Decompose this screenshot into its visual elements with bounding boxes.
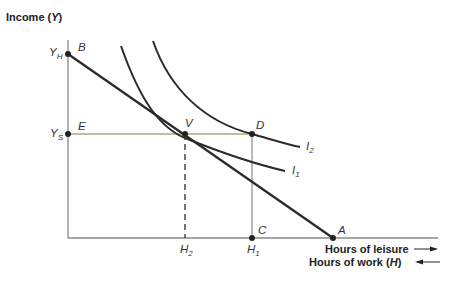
label-i1: I1 [292, 164, 300, 179]
y-axis-label: Income (Y) [6, 11, 63, 23]
point-e [65, 131, 71, 137]
tick-y-h: YH [49, 46, 63, 61]
labor-leisure-diagram: Income (Y) Hours of leisure Hours of wor… [0, 0, 456, 284]
indifference-curve-i2 [153, 41, 300, 147]
label-e: E [78, 120, 86, 132]
label-i2: I2 [306, 140, 314, 155]
label-b: B [78, 41, 86, 53]
label-v: V [185, 117, 194, 129]
point-c [249, 235, 255, 241]
tick-y-s: YS [50, 127, 64, 142]
point-a [330, 235, 336, 241]
label-a: A [337, 224, 346, 236]
tick-h1: H1 [247, 243, 260, 258]
arrow-right-icon [414, 247, 438, 252]
label-c: C [258, 224, 267, 236]
arrow-left-icon [415, 260, 440, 265]
point-v [182, 131, 188, 137]
label-d: D [256, 119, 264, 131]
point-d [249, 131, 255, 137]
x-axis-label-leisure: Hours of leisure [325, 243, 409, 255]
point-b [65, 51, 71, 57]
tick-h2: H2 [180, 243, 193, 258]
x-axis-label-work: Hours of work (H) [309, 256, 402, 268]
